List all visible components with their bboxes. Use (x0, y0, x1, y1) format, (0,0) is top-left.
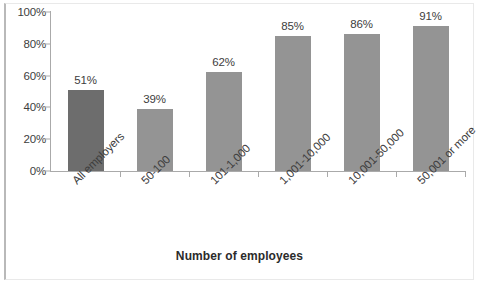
bar-value-label: 86% (350, 18, 372, 30)
bar-group: 39% (120, 12, 189, 171)
bar-value-label: 91% (419, 10, 441, 22)
x-axis-tick-mark (465, 171, 466, 177)
bar-value-label: 51% (74, 74, 96, 86)
bar-value-label: 39% (143, 93, 165, 105)
x-axis-tick-mark (396, 171, 397, 177)
x-axis-tick-mark (258, 171, 259, 177)
y-axis-tick-label: 80% (0, 38, 46, 50)
y-axis-tick-label: 40% (0, 101, 46, 113)
x-axis-tick-mark (327, 171, 328, 177)
y-axis-tick-label: 20% (0, 133, 46, 145)
page-caption (14, 288, 314, 292)
y-axis-tick-label: 0% (0, 165, 46, 177)
bar-value-label: 85% (281, 20, 303, 32)
x-axis-tick-mark (189, 171, 190, 177)
bar-value-label: 62% (212, 56, 234, 68)
x-axis-tick-mark (120, 171, 121, 177)
x-axis-title: Number of employees (0, 249, 479, 263)
y-axis-tick-label: 60% (0, 70, 46, 82)
y-axis-tick-label: 100% (0, 6, 46, 18)
